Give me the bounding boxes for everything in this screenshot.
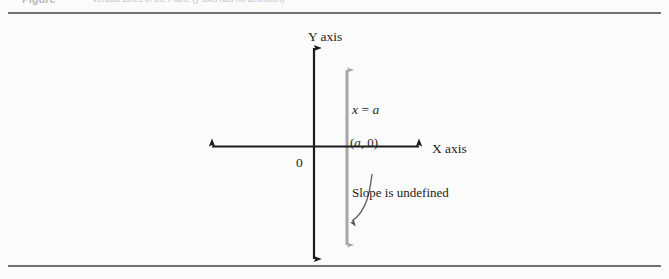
- figure-page: Figure Vertical Lines in the Plane (y-ax…: [0, 0, 669, 279]
- figure-caption-text: Vertical Lines in the Plane (y-axis has …: [92, 0, 284, 4]
- equation-rhs: a: [372, 102, 379, 117]
- equation-label: x = a: [352, 102, 379, 118]
- point-y-value: , 0): [361, 135, 378, 150]
- slope-note-label: Slope is undefined: [352, 185, 449, 201]
- figure-caption-label: Figure: [22, 0, 56, 5]
- origin-label: 0: [296, 155, 303, 171]
- y-axis-label: Y axis: [308, 29, 342, 45]
- figure-caption-strip: Figure Vertical Lines in the Plane (y-ax…: [0, 0, 669, 11]
- coordinate-plane-diagram: [0, 14, 669, 265]
- point-coordinate-label: (a, 0): [350, 135, 378, 151]
- figure-body: Y axis X axis 0 x = a (a, 0) Slope is un…: [0, 14, 669, 265]
- equation-operator: =: [358, 102, 372, 117]
- x-axis-label: X axis: [432, 141, 467, 157]
- bottom-divider-rule: [8, 265, 661, 267]
